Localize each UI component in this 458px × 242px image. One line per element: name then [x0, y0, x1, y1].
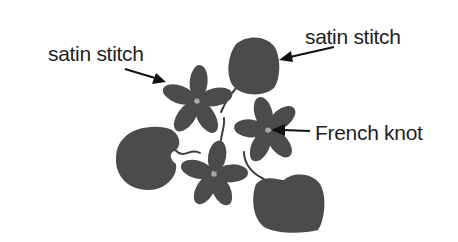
label-satin-stitch-left: satin stitch	[48, 42, 144, 65]
arrow-head-icon	[152, 73, 166, 84]
label-french-knot: French knot	[315, 121, 423, 144]
label-satin-stitch-right: satin stitch	[305, 25, 401, 48]
callout-left: satin stitch	[48, 42, 166, 84]
french-knot	[194, 98, 199, 103]
leaf-bottom	[253, 174, 324, 232]
french-knot	[211, 171, 216, 176]
french-knot	[265, 127, 270, 132]
arrow-line	[290, 47, 334, 57]
arrow-line	[282, 130, 310, 131]
arrow-line	[125, 69, 155, 78]
embroidery-diagram: satin stitch satin stitch French knot	[0, 0, 458, 242]
leaf-left	[116, 127, 179, 190]
leaves	[116, 37, 324, 232]
leaf-top	[228, 37, 279, 94]
arrow-head-icon	[279, 51, 293, 62]
callout-french-knot: French knot	[271, 121, 423, 144]
callout-right: satin stitch	[279, 25, 401, 62]
stem-left-flower	[221, 118, 224, 140]
flower-bottom	[179, 139, 248, 209]
